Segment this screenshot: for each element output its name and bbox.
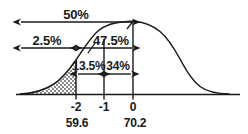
tick-label-neg2: -2 [71, 101, 81, 113]
tick-label-neg1: -1 [99, 101, 109, 113]
label-span-2p5: 2.5% [33, 34, 62, 47]
label-span-47p5: 47.5% [93, 34, 129, 47]
shaded-tail-region [20, 60, 76, 94]
value-label-neg2: 59.6 [66, 117, 89, 129]
label-span-50: 50% [63, 8, 88, 21]
label-span-13p5: 13.5% [72, 60, 105, 72]
distribution-diagram: 50% 2.5% 47.5% 13.5% 34% -2 -1 0 59.6 70… [0, 0, 248, 134]
tick-label-zero: 0 [130, 101, 136, 113]
value-label-zero: 70.2 [124, 117, 147, 129]
label-span-34: 34% [106, 60, 129, 72]
